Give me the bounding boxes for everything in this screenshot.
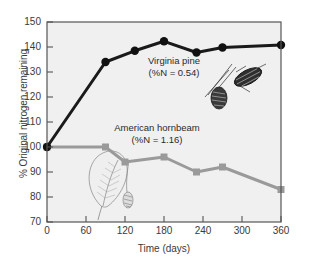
annotation-american-hornbeam-name: American hornbeam: [93, 122, 221, 134]
annotation-virginia-pine-nitrogen: (%N = 0.54): [128, 67, 220, 79]
annotation-american-hornbeam-nitrogen: (%N = 1.16): [93, 134, 221, 146]
annotation-virginia-pine: Virginia pine (%N = 0.54): [128, 55, 220, 79]
annotation-virginia-pine-name: Virginia pine: [128, 55, 220, 67]
annotation-american-hornbeam: American hornbeam (%N = 1.16): [93, 122, 221, 146]
nitrogen-decomposition-chart: % Original nitrogen remaining 150 140 13…: [0, 0, 309, 267]
